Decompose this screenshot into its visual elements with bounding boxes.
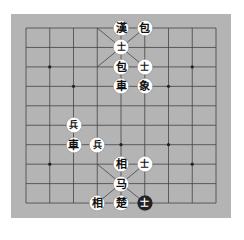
- game-piece[interactable]: 兵: [90, 137, 105, 152]
- game-piece[interactable]: 兵: [66, 118, 81, 133]
- game-piece[interactable]: 包: [114, 59, 129, 74]
- game-piece[interactable]: 士: [137, 196, 152, 211]
- game-piece[interactable]: 車: [66, 137, 81, 152]
- game-piece[interactable]: 士: [137, 157, 152, 172]
- position-marker: [72, 85, 75, 88]
- game-piece[interactable]: 相: [114, 157, 129, 172]
- game-piece[interactable]: 包: [137, 21, 152, 36]
- position-marker: [191, 65, 194, 68]
- game-piece[interactable]: 車: [114, 79, 129, 94]
- game-piece[interactable]: 象: [137, 79, 152, 94]
- position-marker: [48, 163, 51, 166]
- game-piece[interactable]: 漢: [114, 21, 129, 36]
- game-piece[interactable]: 相: [90, 196, 105, 211]
- position-marker: [167, 143, 170, 146]
- position-marker: [191, 163, 194, 166]
- position-marker: [48, 65, 51, 68]
- game-piece[interactable]: 马: [114, 176, 129, 191]
- position-marker: [167, 85, 170, 88]
- game-piece[interactable]: 楚: [114, 196, 129, 211]
- position-marker: [119, 143, 122, 146]
- game-piece[interactable]: 士: [114, 40, 129, 55]
- game-piece[interactable]: 士: [137, 59, 152, 74]
